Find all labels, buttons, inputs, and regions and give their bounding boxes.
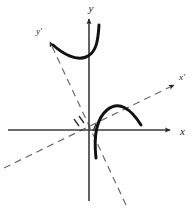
upper-left-branch	[53, 25, 99, 58]
x-axis-label: x	[179, 125, 185, 137]
curves-group	[53, 25, 141, 158]
y-prime-axis-label: y'	[35, 26, 43, 36]
y-axis-label: y	[88, 2, 94, 14]
lower-right-branch	[95, 106, 141, 158]
y-prime-tick-2	[79, 116, 84, 123]
x-prime-axis-label: x'	[178, 72, 186, 82]
solid-axes-group	[8, 19, 170, 201]
y-prime-axis	[50, 42, 126, 205]
y-prime-tick-1	[74, 119, 79, 126]
rotated-axes-diagram: y x y' x'	[0, 0, 193, 209]
figure-container: y x y' x'	[0, 0, 193, 209]
